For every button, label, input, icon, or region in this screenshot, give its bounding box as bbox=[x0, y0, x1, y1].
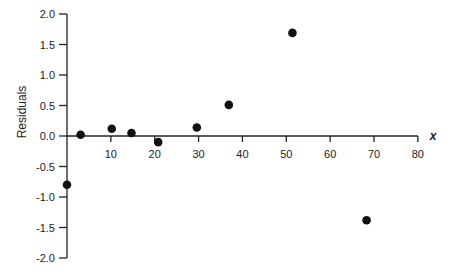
x-tick-label: 20 bbox=[149, 148, 161, 160]
y-axis: 2.01.51.00.50.0-0.5-1.0-1.5-2.0 bbox=[36, 8, 67, 264]
data-point bbox=[225, 101, 234, 110]
y-tick-label: -1.5 bbox=[36, 222, 55, 234]
y-tick-label: -1.0 bbox=[36, 191, 55, 203]
x-tick-label: 80 bbox=[412, 148, 424, 160]
y-tick-label: -2.0 bbox=[36, 252, 55, 264]
data-point bbox=[362, 216, 371, 225]
x-tick-label: 70 bbox=[368, 148, 380, 160]
x-tick-label: 60 bbox=[324, 148, 336, 160]
y-tick-label: 0.5 bbox=[40, 100, 55, 112]
data-point bbox=[193, 123, 202, 132]
data-point bbox=[288, 29, 297, 38]
x-axis-label: x bbox=[429, 129, 438, 143]
y-tick-label: -0.5 bbox=[36, 161, 55, 173]
x-tick-label: 50 bbox=[280, 148, 292, 160]
data-point bbox=[107, 124, 116, 133]
data-points bbox=[63, 29, 371, 225]
y-tick-label: 1.5 bbox=[40, 39, 55, 51]
y-axis-label: Residuals bbox=[15, 86, 29, 139]
y-tick-label: 2.0 bbox=[40, 8, 55, 20]
data-point bbox=[154, 138, 163, 147]
x-tick-label: 10 bbox=[105, 148, 117, 160]
data-point bbox=[76, 130, 85, 139]
x-tick-label: 40 bbox=[236, 148, 248, 160]
data-point bbox=[127, 129, 136, 138]
x-tick-label: 30 bbox=[192, 148, 204, 160]
x-axis: 1020304050607080 bbox=[67, 136, 424, 160]
residual-scatter-plot: 2.01.51.00.50.0-0.5-1.0-1.5-2.0 10203040… bbox=[0, 0, 456, 280]
y-tick-label: 0.0 bbox=[40, 130, 55, 142]
y-tick-label: 1.0 bbox=[40, 69, 55, 81]
data-point bbox=[63, 181, 72, 190]
